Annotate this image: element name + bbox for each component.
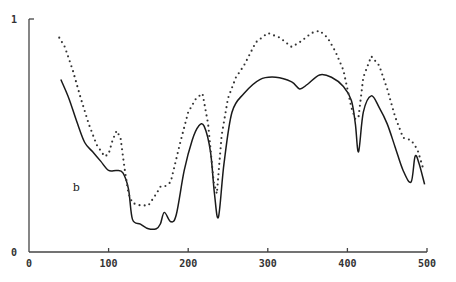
- x-tick-label: 300: [259, 258, 277, 269]
- annotation-label: b: [73, 181, 80, 194]
- series-dotted: [58, 30, 423, 206]
- y-tick-label: 1: [11, 14, 17, 25]
- y-tick-label: 0: [11, 247, 17, 258]
- x-ticks: 0100200300400500: [26, 248, 436, 269]
- annotations: b: [73, 181, 80, 194]
- x-tick-label: 200: [179, 258, 197, 269]
- x-tick-label: 100: [100, 258, 118, 269]
- y-axis: [29, 19, 34, 252]
- x-tick-label: 0: [26, 258, 32, 269]
- line-chart: 0100200300400500 01 b: [0, 0, 456, 282]
- series-solid: [61, 75, 425, 230]
- x-tick-label: 500: [418, 258, 436, 269]
- x-tick-label: 400: [338, 258, 356, 269]
- series-layer: [58, 30, 424, 229]
- y-ticks: 01: [11, 14, 17, 258]
